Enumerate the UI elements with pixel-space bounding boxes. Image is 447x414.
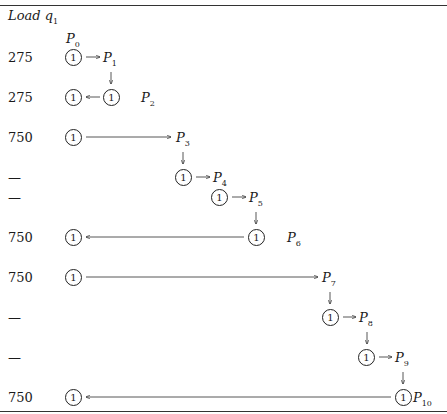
arrows-layer [0,0,447,414]
